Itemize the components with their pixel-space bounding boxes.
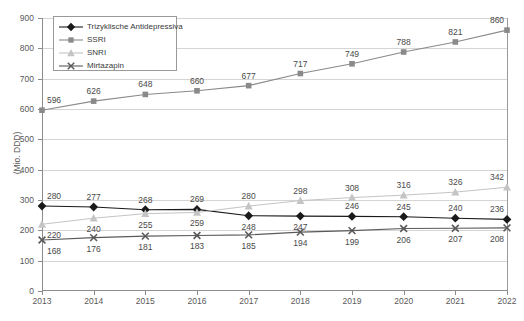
data-label: 208 — [490, 234, 504, 244]
diamond-marker-icon — [58, 21, 84, 33]
data-label: 199 — [345, 237, 359, 247]
data-label: 248 — [242, 222, 256, 232]
legend-label: SNRI — [87, 47, 106, 59]
series-trizyklische-antidepressiva — [38, 202, 512, 224]
legend: Trizyklische AntidepressivaSSRISNRIMirta… — [53, 16, 177, 71]
legend-label: Mirtazapin — [87, 60, 124, 72]
series-mirtazapin — [39, 225, 511, 244]
data-label: 280 — [47, 191, 61, 201]
data-label: 185 — [242, 241, 256, 251]
data-label: 860 — [490, 15, 504, 25]
series-snri — [38, 183, 511, 228]
square-marker-icon — [58, 34, 84, 46]
x-marker-icon — [58, 60, 84, 72]
data-label: 240 — [448, 203, 462, 213]
data-label: 207 — [448, 234, 462, 244]
data-label: 749 — [345, 49, 359, 59]
legend-label: SSRI — [87, 34, 106, 46]
data-label: 308 — [345, 183, 359, 193]
data-label: 677 — [242, 71, 256, 81]
data-label: 240 — [87, 224, 101, 234]
data-label: 316 — [397, 180, 411, 190]
data-label: 660 — [190, 76, 204, 86]
data-label: 246 — [345, 201, 359, 211]
legend-item-trizyklische-antidepressiva[interactable]: Trizyklische Antidepressiva — [58, 20, 172, 33]
legend-label: Trizyklische Antidepressiva — [87, 21, 183, 33]
data-label: 596 — [47, 95, 61, 105]
triangle-marker-icon — [58, 47, 84, 59]
data-label: 626 — [87, 86, 101, 96]
data-label: 259 — [190, 218, 204, 228]
legend-item-ssri[interactable]: SSRI — [58, 33, 172, 46]
data-label: 194 — [293, 238, 307, 248]
data-label: 255 — [138, 220, 152, 230]
data-label: 788 — [397, 37, 411, 47]
data-label: 342 — [490, 172, 504, 182]
data-label: 821 — [448, 27, 462, 37]
data-label: 220 — [47, 230, 61, 240]
data-label: 277 — [87, 192, 101, 202]
data-label: 236 — [490, 204, 504, 214]
data-label: 206 — [397, 235, 411, 245]
data-label: 268 — [138, 195, 152, 205]
data-label: 183 — [190, 241, 204, 251]
data-label: 717 — [293, 59, 307, 69]
line-chart: (Mio. DDD) 0100200300400500600700800900 … — [0, 0, 524, 321]
legend-item-snri[interactable]: SNRI — [58, 46, 172, 59]
data-label: 648 — [138, 79, 152, 89]
data-label: 326 — [448, 177, 462, 187]
data-label: 298 — [293, 186, 307, 196]
data-label: 245 — [397, 202, 411, 212]
data-label: 176 — [87, 244, 101, 254]
data-label: 269 — [190, 194, 204, 204]
data-label: 280 — [242, 191, 256, 201]
data-label: 181 — [138, 242, 152, 252]
data-label: 247 — [293, 222, 307, 232]
data-label: 168 — [47, 246, 61, 256]
legend-item-mirtazapin[interactable]: Mirtazapin — [58, 59, 172, 72]
